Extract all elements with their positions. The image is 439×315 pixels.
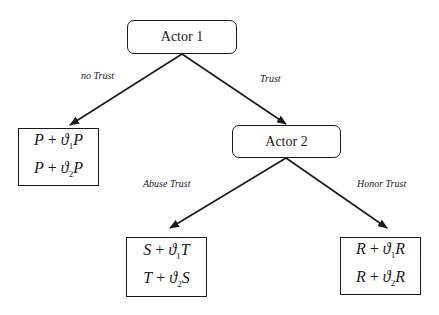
actor-1-label: Actor 1 <box>161 29 203 45</box>
edge-label-trust: Trust <box>260 73 281 84</box>
edge-no-trust <box>70 54 182 125</box>
edge-label-abuse-trust: Abuse Trust <box>143 178 191 189</box>
edge-trust <box>182 54 286 124</box>
actor-1-node: Actor 1 <box>127 20 237 54</box>
edge-label-no-trust: no Trust <box>81 70 114 81</box>
edge-honor-trust <box>286 158 387 228</box>
payoff-line-actor1: P + ϑ1P <box>34 129 83 157</box>
payoff-line-actor1: S + ϑ1T <box>143 239 189 267</box>
edge-abuse-trust <box>170 158 286 228</box>
edge-label-honor-trust: Honor Trust <box>357 178 406 189</box>
actor-2-node: Actor 2 <box>232 125 341 158</box>
payoff-line-actor2: P + ϑ2P <box>34 157 83 185</box>
payoff-box-no-trust: P + ϑ1P P + ϑ2P <box>18 128 99 186</box>
payoff-box-abuse-trust: S + ϑ1T T + ϑ2S <box>126 237 207 297</box>
payoff-box-honor-trust: R + ϑ1R R + ϑ2R <box>340 237 421 295</box>
payoff-line-actor2: T + ϑ2S <box>143 267 189 295</box>
payoff-line-actor1: R + ϑ1R <box>356 238 405 266</box>
actor-2-label: Actor 2 <box>265 134 307 150</box>
payoff-line-actor2: R + ϑ2R <box>356 266 405 294</box>
